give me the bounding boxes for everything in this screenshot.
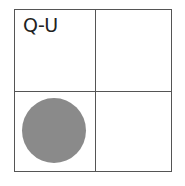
- horizontal-divider: [15, 91, 171, 92]
- circle-marker: [22, 98, 86, 163]
- two-by-two-grid: Q-U: [14, 9, 172, 172]
- quadrant-label: Q-U: [23, 14, 58, 36]
